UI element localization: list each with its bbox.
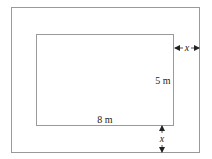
inner-rectangle <box>37 35 174 126</box>
bottom-x-label: x <box>159 133 165 144</box>
width-label: 8 m <box>97 114 113 125</box>
height-label: 5 m <box>155 75 171 86</box>
outer-rectangle <box>12 8 200 153</box>
right-x-label: x <box>184 42 190 53</box>
garden-path-diagram: x x 5 m 8 m <box>0 0 212 159</box>
